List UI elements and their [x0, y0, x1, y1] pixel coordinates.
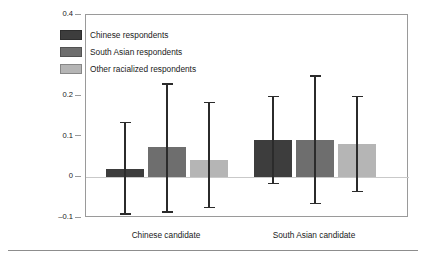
y-axis-tick-label: –0.1: [58, 211, 73, 223]
error-bar-cap-upper: [268, 96, 279, 97]
y-axis-tick-mark: [75, 95, 81, 96]
error-bar-cap-upper: [352, 96, 363, 97]
y-axis-tick-label: 0: [69, 170, 73, 182]
legend-swatch: [60, 64, 82, 74]
bottom-rule: [8, 250, 418, 251]
y-axis-tick-label: 0.4: [62, 8, 73, 20]
legend-swatch: [60, 47, 82, 57]
y-axis-tick: 0.1: [0, 130, 85, 142]
x-axis-category-label: Chinese candidate: [96, 229, 236, 241]
error-bar-cap-upper: [310, 75, 321, 76]
error-bar-cap-lower: [268, 183, 279, 184]
y-axis-tick: 0: [0, 170, 85, 182]
bar-slot: [254, 15, 292, 218]
legend-item: South Asian respondents: [60, 44, 240, 60]
y-axis-tick: –0.1: [0, 211, 85, 223]
legend-item: Other racialized respondents: [60, 61, 240, 77]
x-axis-category-label: South Asian candidate: [244, 229, 384, 241]
error-bar-cap-lower: [352, 191, 363, 192]
legend-swatch: [60, 30, 82, 40]
error-bar: [314, 76, 315, 204]
legend: Chinese respondentsSouth Asian responden…: [60, 27, 240, 78]
legend-item-label: Chinese respondents: [90, 27, 168, 43]
y-axis-tick-label: 0.2: [62, 89, 73, 101]
y-axis-tick: 0.4: [0, 8, 85, 20]
y-axis-tick-mark: [75, 135, 81, 136]
error-bar-cap-lower: [310, 203, 321, 204]
bar-slot: [338, 15, 376, 218]
y-axis-tick-mark: [75, 14, 81, 15]
bar-slot: [296, 15, 334, 218]
y-axis-tick: 0.2: [0, 89, 85, 101]
legend-item-label: Other racialized respondents: [90, 61, 196, 77]
error-bar: [356, 96, 357, 191]
legend-item: Chinese respondents: [60, 27, 240, 43]
error-bar: [272, 96, 273, 183]
bar-chart-figure: 0.40.30.20.10–0.1 Chinese respondentsSou…: [0, 0, 426, 261]
y-axis-tick-mark: [75, 217, 81, 218]
y-axis-tick-label: 0.1: [62, 130, 73, 142]
legend-item-label: South Asian respondents: [90, 44, 182, 60]
y-axis-tick-mark: [75, 176, 81, 177]
